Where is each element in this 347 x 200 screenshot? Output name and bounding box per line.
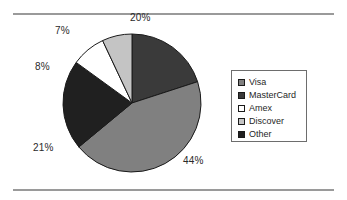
- slice-label-visa: 44%: [183, 155, 204, 166]
- legend-label: Amex: [249, 103, 272, 113]
- square-swatch-icon: [238, 118, 245, 125]
- legend-label: MasterCard: [249, 90, 296, 100]
- top-divider-rule: [13, 13, 334, 15]
- legend-item-other[interactable]: Other: [238, 128, 302, 140]
- pie-chart-figure: 20% 44% 21% 8% 7% Visa MasterCard Amex D…: [0, 0, 347, 200]
- slice-label-discover: 7%: [55, 25, 70, 36]
- legend-label: Other: [249, 129, 272, 139]
- slice-label-mastercard: 20%: [130, 12, 151, 23]
- slice-label-amex: 8%: [35, 61, 50, 72]
- legend-item-visa[interactable]: Visa: [238, 76, 302, 88]
- square-swatch-icon: [238, 105, 245, 112]
- legend-item-amex[interactable]: Amex: [238, 102, 302, 114]
- square-swatch-icon: [238, 92, 245, 99]
- chart-legend: Visa MasterCard Amex Discover Other: [231, 70, 307, 142]
- legend-label: Discover: [249, 116, 284, 126]
- square-swatch-icon: [238, 131, 245, 138]
- legend-item-discover[interactable]: Discover: [238, 115, 302, 127]
- legend-item-mastercard[interactable]: MasterCard: [238, 89, 302, 101]
- pie-plot-area: [62, 33, 202, 173]
- pie-svg: [62, 33, 202, 173]
- square-swatch-icon: [238, 79, 245, 86]
- legend-label: Visa: [249, 77, 266, 87]
- bottom-divider-rule: [13, 189, 334, 191]
- pie-slice-group: [63, 34, 201, 172]
- slice-label-other: 21%: [33, 142, 54, 153]
